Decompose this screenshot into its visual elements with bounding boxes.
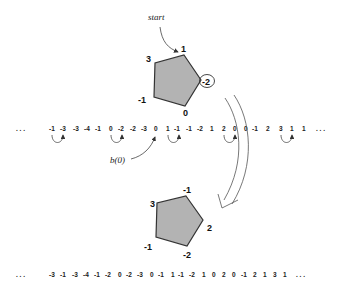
svg-text:0: 0 (109, 125, 113, 132)
svg-text:2: 2 (253, 271, 257, 278)
svg-text:-1: -1 (178, 271, 184, 278)
transition-arrow (218, 95, 248, 208)
top-vertex-top: 1 (181, 44, 186, 54)
start-arrow (160, 27, 178, 52)
svg-text:0: 0 (232, 271, 236, 278)
svg-text:-2: -2 (189, 271, 195, 278)
svg-text:-4: -4 (84, 125, 90, 132)
bottom-vertex-bottom-left: -1 (144, 242, 152, 252)
svg-text:-2: -2 (105, 271, 111, 278)
svg-text:-1: -1 (60, 271, 66, 278)
svg-text:. . .: . . . (316, 125, 325, 132)
svg-text:. . .: . . . (296, 271, 305, 278)
swap-arcs (52, 135, 292, 143)
bottom-pentagon (156, 196, 203, 246)
svg-text:-2: -2 (126, 271, 132, 278)
b0-arrow (131, 137, 155, 159)
svg-text:. . .: . . . (16, 125, 25, 132)
svg-text:1: 1 (302, 125, 306, 132)
svg-text:3: 3 (279, 125, 283, 132)
svg-text:-1: -1 (158, 271, 164, 278)
bottom-vertex-upper-left: 3 (150, 199, 155, 209)
svg-text:-3: -3 (60, 125, 66, 132)
svg-text:-3: -3 (141, 125, 147, 132)
svg-text:1: 1 (210, 125, 214, 132)
top-vertex-bottom-left: -1 (138, 95, 146, 105)
top-pentagon (154, 55, 201, 106)
svg-text:0: 0 (154, 125, 158, 132)
svg-text:2: 2 (222, 271, 226, 278)
svg-text:1: 1 (202, 271, 206, 278)
bottom-vertex-top: -1 (183, 185, 191, 195)
top-vertex-right: -2 (202, 77, 210, 87)
svg-text:0: 0 (118, 271, 122, 278)
svg-text:2: 2 (222, 125, 226, 132)
svg-text:2: 2 (266, 125, 270, 132)
svg-text:-1: -1 (95, 125, 101, 132)
b0-label: b(0) (110, 155, 125, 165)
start-label: start (148, 12, 165, 22)
top-sequence: . . . -1 -3 -3 -4 -1 0 -2 -2 -3 0 1 -1 -… (16, 125, 325, 132)
bottom-sequence: . . . -3 -1 -3 -4 -1 -2 0 -2 -3 0 -1 1 -… (16, 271, 305, 278)
svg-text:1: 1 (263, 271, 267, 278)
svg-text:0: 0 (212, 271, 216, 278)
bottom-vertex-right: 2 (207, 223, 212, 233)
svg-text:-3: -3 (72, 271, 78, 278)
svg-text:3: 3 (273, 271, 277, 278)
svg-text:. . .: . . . (16, 271, 25, 278)
svg-text:-2: -2 (130, 125, 136, 132)
svg-text:-1: -1 (186, 125, 192, 132)
bottom-vertex-bottom-right: -2 (183, 250, 191, 260)
top-vertex-upper-left: 3 (146, 54, 151, 64)
svg-text:-4: -4 (83, 271, 89, 278)
svg-text:-1: -1 (252, 125, 258, 132)
pentagon-sequence-diagram: start 1 -2 0 -1 3 . . . -1 -3 -3 -4 -1 0… (0, 0, 358, 293)
svg-text:-1: -1 (49, 125, 55, 132)
svg-text:1: 1 (166, 125, 170, 132)
svg-text:1: 1 (171, 271, 175, 278)
svg-text:-2: -2 (118, 125, 124, 132)
svg-text:-3: -3 (49, 271, 55, 278)
svg-text:0: 0 (150, 271, 154, 278)
svg-text:-1: -1 (94, 271, 100, 278)
svg-text:-2: -2 (197, 125, 203, 132)
svg-text:1: 1 (283, 271, 287, 278)
svg-text:-3: -3 (73, 125, 79, 132)
top-vertex-bottom-right: 0 (183, 108, 188, 118)
svg-text:1: 1 (290, 125, 294, 132)
svg-text:-1: -1 (241, 271, 247, 278)
svg-text:-1: -1 (174, 125, 180, 132)
svg-text:-3: -3 (137, 271, 143, 278)
